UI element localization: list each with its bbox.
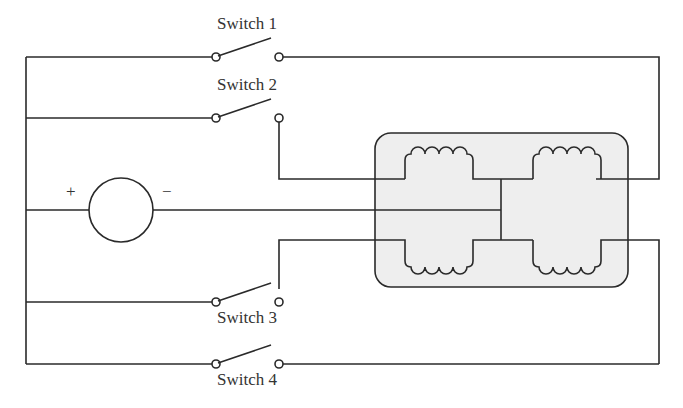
switch-1-blade (218, 38, 271, 56)
switch-1-contact-right (275, 53, 283, 61)
voltage-source (89, 178, 153, 242)
switch-3-contact-right (275, 298, 283, 306)
switch-4-label: Switch 4 (217, 370, 277, 390)
switch-1-contact-left (212, 53, 220, 61)
switch-1-label: Switch 1 (217, 14, 277, 34)
switch-2-blade (218, 99, 271, 117)
switch-3-label: Switch 3 (217, 308, 277, 328)
switch-2-contact-left (212, 114, 220, 122)
source-minus-label: − (162, 182, 172, 202)
source-plus-label: + (66, 182, 76, 202)
switch-3-contact-left (212, 298, 220, 306)
switch-4-blade (218, 345, 271, 363)
switch-2-label: Switch 2 (217, 75, 277, 95)
circuit-diagram (0, 0, 683, 408)
switch-4-contact-right (275, 360, 283, 368)
switch-2-contact-right (275, 114, 283, 122)
switch-4-contact-left (212, 360, 220, 368)
switch-3-blade (218, 283, 271, 301)
